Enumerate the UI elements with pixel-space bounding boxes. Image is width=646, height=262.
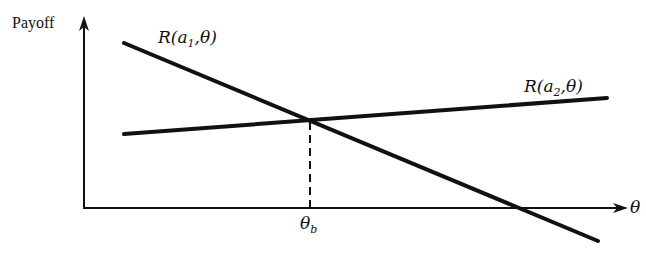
breakpoint-symbol: θ: [300, 213, 310, 233]
line-r-a2: [124, 98, 607, 134]
line-r-a1-suffix: ,θ): [195, 27, 217, 47]
payoff-diagram: [0, 0, 646, 262]
line-r-a1-label: R(a1,θ): [158, 27, 217, 50]
y-axis-label: Payoff: [12, 14, 54, 32]
breakpoint-sub: b: [310, 223, 317, 236]
line-r-a2-label: R(a2,θ): [524, 76, 583, 99]
breakpoint-label: θb: [300, 213, 317, 236]
line-r-a1-prefix: R(a: [158, 27, 188, 47]
line-r-a1: [124, 43, 598, 241]
line-r-a2-sub: 2: [554, 86, 561, 99]
line-r-a2-prefix: R(a: [524, 76, 554, 96]
line-r-a2-suffix: ,θ): [561, 76, 583, 96]
line-r-a1-sub: 1: [188, 37, 195, 50]
x-axis-label: θ: [630, 197, 640, 217]
